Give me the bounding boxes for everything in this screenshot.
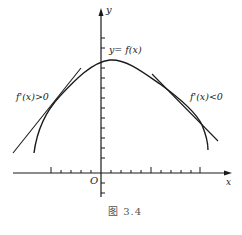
x-axis-label: x — [226, 177, 231, 187]
figure-canvas — [0, 0, 242, 235]
tangent-right — [152, 74, 218, 141]
figure-caption: 图 3.4 — [108, 203, 142, 218]
right-slope-label: f'(x)<0 — [190, 91, 223, 102]
left-slope-label: f'(x)>0 — [16, 91, 49, 102]
tangent-left — [13, 68, 81, 153]
x-axis-ticks — [51, 167, 200, 173]
x-axis-arrow-icon — [224, 171, 232, 176]
y-axis-arrow-icon — [99, 8, 104, 16]
curve-f — [34, 60, 208, 153]
curve-label: y= f(x) — [109, 44, 142, 55]
y-axis-label: y — [106, 4, 112, 15]
origin-label: O — [90, 175, 98, 186]
